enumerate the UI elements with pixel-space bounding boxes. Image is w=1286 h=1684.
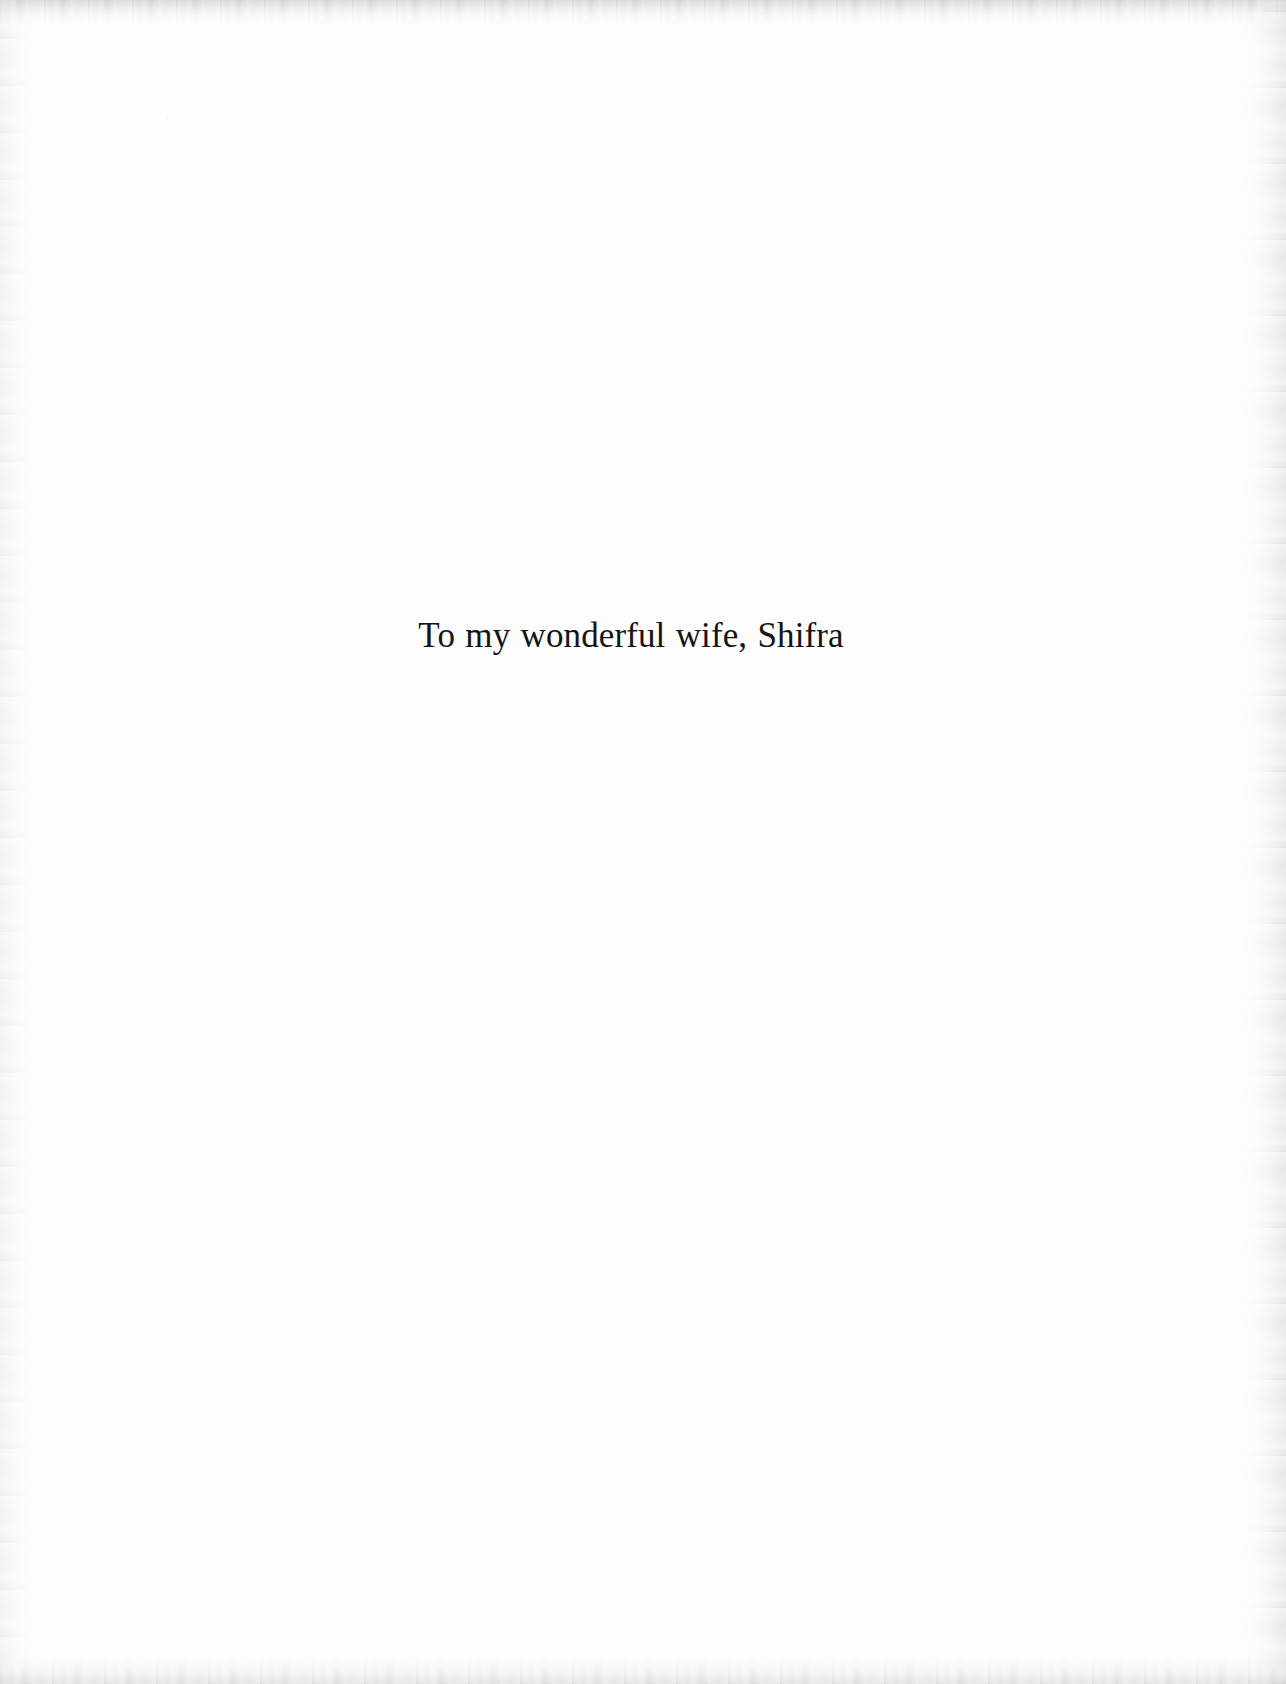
paper-background	[0, 0, 1286, 1684]
dedication-page: To my wonderful wife, Shifra	[0, 0, 1286, 1684]
